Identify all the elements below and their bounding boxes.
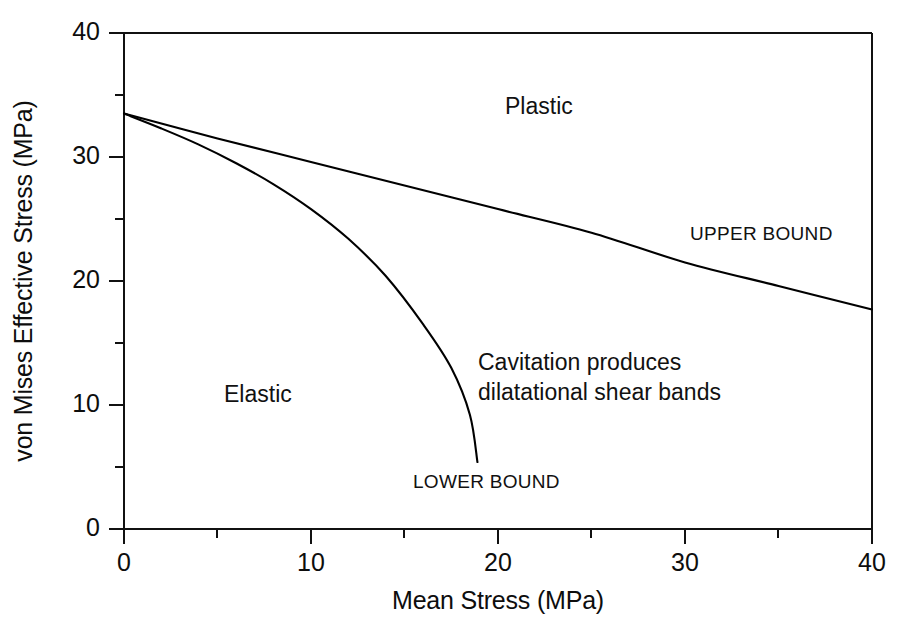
- annotation-cavitation-line-1: Cavitation produces: [478, 348, 681, 377]
- x-tick-label-10: 10: [281, 548, 341, 577]
- y-tick-label-10: 10: [40, 389, 100, 418]
- annotation-elastic-region: Elastic: [224, 380, 292, 409]
- curve-lower-bound: [124, 114, 477, 462]
- x-tick-label-0: 0: [94, 548, 154, 577]
- y-tick-label-30: 30: [40, 141, 100, 170]
- annotation-lower-bound-label: LOWER BOUND: [413, 470, 560, 494]
- y-axis-major-ticks: [109, 33, 124, 529]
- annotation-upper-bound-label: UPPER BOUND: [690, 222, 833, 246]
- x-tick-label-30: 30: [655, 548, 715, 577]
- x-axis-major-ticks: [124, 529, 872, 544]
- y-tick-label-20: 20: [40, 265, 100, 294]
- x-tick-label-40: 40: [842, 548, 902, 577]
- y-axis-title: von Mises Effective Stress (MPa): [6, 33, 40, 529]
- annotation-cavitation-line-2: dilatational shear bands: [478, 378, 721, 407]
- figure-caption-sliver: [8, 629, 548, 644]
- y-tick-label-0: 0: [40, 513, 100, 542]
- x-axis-title: Mean Stress (MPa): [124, 586, 872, 615]
- curve-upper-bound: [124, 114, 872, 310]
- x-tick-label-20: 20: [468, 548, 528, 577]
- y-tick-label-40: 40: [40, 17, 100, 46]
- annotation-plastic-region: Plastic: [505, 92, 573, 121]
- figure-container: 40 30 20 10 0 0 10 20 30 40 von Mises Ef…: [0, 0, 907, 644]
